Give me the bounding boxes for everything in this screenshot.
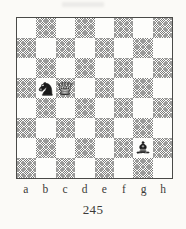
square-h7[interactable] xyxy=(153,38,172,58)
file-label-b: b xyxy=(36,184,56,196)
square-c1[interactable] xyxy=(56,158,75,178)
square-a5[interactable] xyxy=(17,78,36,98)
square-e8[interactable] xyxy=(95,18,114,38)
file-label-h: h xyxy=(153,184,173,196)
square-a7[interactable] xyxy=(17,38,36,58)
square-e7[interactable] xyxy=(95,38,114,58)
diagram-caption: 245 xyxy=(0,202,186,218)
square-e4[interactable] xyxy=(95,98,114,118)
square-f1[interactable] xyxy=(114,158,133,178)
square-d2[interactable] xyxy=(75,138,94,158)
square-g4[interactable] xyxy=(133,98,152,118)
square-g3[interactable] xyxy=(133,118,152,138)
black-knight-icon[interactable] xyxy=(38,80,55,97)
square-g1[interactable] xyxy=(133,158,152,178)
square-b3[interactable] xyxy=(36,118,55,138)
file-labels: a b c d e f g h xyxy=(16,181,173,198)
square-f6[interactable] xyxy=(114,58,133,78)
square-a1[interactable] xyxy=(17,158,36,178)
square-b5[interactable] xyxy=(36,78,55,98)
square-a3[interactable] xyxy=(17,118,36,138)
square-g5[interactable] xyxy=(133,78,152,98)
square-h2[interactable] xyxy=(153,138,172,158)
square-d4[interactable] xyxy=(75,98,94,118)
square-a4[interactable] xyxy=(17,98,36,118)
square-f2[interactable] xyxy=(114,138,133,158)
square-h1[interactable] xyxy=(153,158,172,178)
square-f5[interactable] xyxy=(114,78,133,98)
square-b4[interactable] xyxy=(36,98,55,118)
square-c5[interactable] xyxy=(56,78,75,98)
square-f7[interactable] xyxy=(114,38,133,58)
square-g2[interactable] xyxy=(133,138,152,158)
square-e6[interactable] xyxy=(95,58,114,78)
square-a8[interactable] xyxy=(17,18,36,38)
square-e5[interactable] xyxy=(95,78,114,98)
square-c6[interactable] xyxy=(56,58,75,78)
square-c8[interactable] xyxy=(56,18,75,38)
square-b1[interactable] xyxy=(36,158,55,178)
square-e3[interactable] xyxy=(95,118,114,138)
square-f4[interactable] xyxy=(114,98,133,118)
chess-board xyxy=(17,18,172,178)
square-h4[interactable] xyxy=(153,98,172,118)
file-label-e: e xyxy=(95,184,115,196)
square-b6[interactable] xyxy=(36,58,55,78)
square-b2[interactable] xyxy=(36,138,55,158)
file-label-a: a xyxy=(16,184,36,196)
square-f8[interactable] xyxy=(114,18,133,38)
square-b8[interactable] xyxy=(36,18,55,38)
square-d5[interactable] xyxy=(75,78,94,98)
square-c2[interactable] xyxy=(56,138,75,158)
square-d1[interactable] xyxy=(75,158,94,178)
square-f3[interactable] xyxy=(114,118,133,138)
square-d3[interactable] xyxy=(75,118,94,138)
square-d7[interactable] xyxy=(75,38,94,58)
square-c7[interactable] xyxy=(56,38,75,58)
square-d8[interactable] xyxy=(75,18,94,38)
chess-diagram xyxy=(16,17,173,179)
square-h6[interactable] xyxy=(153,58,172,78)
square-c4[interactable] xyxy=(56,98,75,118)
file-label-c: c xyxy=(55,184,75,196)
square-h5[interactable] xyxy=(153,78,172,98)
file-label-f: f xyxy=(114,184,134,196)
scan-artifact xyxy=(62,2,104,7)
square-b7[interactable] xyxy=(36,38,55,58)
file-label-d: d xyxy=(75,184,95,196)
square-g6[interactable] xyxy=(133,58,152,78)
square-a6[interactable] xyxy=(17,58,36,78)
square-a2[interactable] xyxy=(17,138,36,158)
black-bishop-icon[interactable] xyxy=(134,140,151,157)
square-h3[interactable] xyxy=(153,118,172,138)
white-queen-icon[interactable] xyxy=(57,80,74,97)
square-e1[interactable] xyxy=(95,158,114,178)
square-e2[interactable] xyxy=(95,138,114,158)
square-g7[interactable] xyxy=(133,38,152,58)
square-d6[interactable] xyxy=(75,58,94,78)
scanned-page: a b c d e f g h 245 xyxy=(0,0,186,229)
file-label-g: g xyxy=(134,184,154,196)
square-c3[interactable] xyxy=(56,118,75,138)
square-h8[interactable] xyxy=(153,18,172,38)
square-g8[interactable] xyxy=(133,18,152,38)
